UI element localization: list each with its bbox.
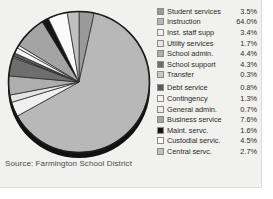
legend-item-value: 3.4% xyxy=(235,28,257,37)
legend-item[interactable]: School support4.3% xyxy=(157,59,257,70)
legend-swatch-icon xyxy=(157,71,164,78)
legend-item-label: Student services xyxy=(167,7,235,16)
legend-item-value: 4.3% xyxy=(235,60,257,69)
legend-swatch-icon xyxy=(157,84,164,91)
pie-chart-svg xyxy=(4,6,156,158)
legend-item[interactable]: General admin.0.7% xyxy=(157,104,257,115)
legend-item-value: 7.6% xyxy=(235,115,257,124)
legend-item[interactable]: Inst. staff supp3.4% xyxy=(157,27,257,38)
legend-item-label: Business service xyxy=(167,115,235,124)
legend-item-value: 0.3% xyxy=(235,70,257,79)
legend-swatch-icon xyxy=(157,95,164,102)
legend-item-value: 2.7% xyxy=(235,147,257,156)
legend-item-label: Custodial servic. xyxy=(167,136,235,145)
legend-item-value: 1.7% xyxy=(235,39,257,48)
legend-item-value: 3.5% xyxy=(235,7,257,16)
legend-item-label: Contingency xyxy=(167,94,235,103)
legend-swatch-icon xyxy=(157,50,164,57)
legend-item-value: 1.6% xyxy=(235,126,257,135)
legend-item[interactable]: Instruction64.0% xyxy=(157,17,257,28)
legend-item[interactable]: Utility services1.7% xyxy=(157,38,257,49)
legend-swatch-icon xyxy=(157,29,164,36)
legend-swatch-icon xyxy=(157,18,164,25)
legend-item[interactable]: School admin.4.4% xyxy=(157,48,257,59)
legend-item[interactable]: Transfer0.3% xyxy=(157,70,257,81)
legend-item-label: School admin. xyxy=(167,49,235,58)
legend-item[interactable]: Central servc.2.7% xyxy=(157,146,257,157)
legend-item-value: 1.3% xyxy=(235,94,257,103)
legend-item-label: Inst. staff supp xyxy=(167,28,235,37)
chart-legend: Student services3.5%Instruction64.0%Inst… xyxy=(157,6,257,157)
legend-item-label: Maint. servc. xyxy=(167,126,235,135)
legend-item-label: Utility services xyxy=(167,39,235,48)
legend-swatch-icon xyxy=(157,40,164,47)
legend-item-value: 4.4% xyxy=(235,49,257,58)
legend-item[interactable]: Debt service0.8% xyxy=(157,83,257,94)
legend-swatch-icon xyxy=(157,116,164,123)
chart-screenshot: Source: Farmington School District Stude… xyxy=(0,0,273,199)
legend-swatch-icon xyxy=(157,106,164,113)
legend-swatch-icon xyxy=(157,137,164,144)
pie-chart xyxy=(4,6,156,158)
legend-item[interactable]: Business service7.6% xyxy=(157,114,257,125)
legend-swatch-icon xyxy=(157,8,164,15)
legend-item-label: Instruction xyxy=(167,17,235,26)
legend-item-label: Central servc. xyxy=(167,147,235,156)
legend-item-value: 0.7% xyxy=(235,105,257,114)
legend-item[interactable]: Student services3.5% xyxy=(157,6,257,17)
legend-item-label: General admin. xyxy=(167,105,235,114)
legend-item[interactable]: Custodial servic.4.5% xyxy=(157,136,257,147)
legend-item-value: 4.5% xyxy=(235,136,257,145)
legend-item[interactable]: Maint. servc.1.6% xyxy=(157,125,257,136)
legend-swatch-icon xyxy=(157,127,164,134)
legend-item-label: Debt service xyxy=(167,83,235,92)
legend-swatch-icon xyxy=(157,61,164,68)
legend-swatch-icon xyxy=(157,148,164,155)
legend-item-value: 0.8% xyxy=(235,83,257,92)
source-caption: Source: Farmington School District xyxy=(5,159,132,168)
legend-item-label: Transfer xyxy=(167,70,235,79)
legend-item[interactable]: Contingency1.3% xyxy=(157,93,257,104)
legend-item-label: School support xyxy=(167,60,235,69)
legend-item-value: 64.0% xyxy=(235,17,257,26)
